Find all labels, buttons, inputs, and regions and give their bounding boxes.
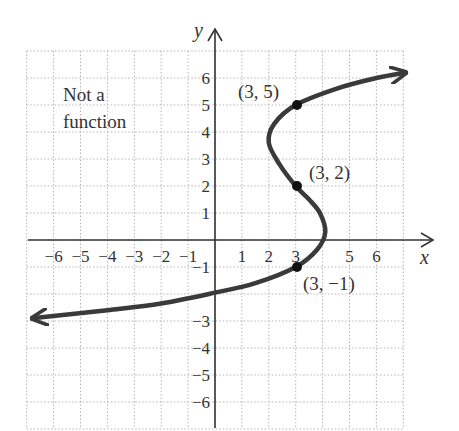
y-tick-label: −4 <box>192 339 211 358</box>
x-tick-label: 6 <box>372 247 381 266</box>
point-3-5 <box>292 100 302 110</box>
point-3-neg1 <box>292 262 302 272</box>
x-tick-label: −6 <box>45 247 63 266</box>
y-tick-label: 3 <box>202 150 211 169</box>
graph-plot: x y −6−5−4−3−2−112356654321−1−3−4−5−6 No… <box>0 0 459 431</box>
y-tick-label: −3 <box>192 312 210 331</box>
y-tick-label: 6 <box>202 69 211 88</box>
y-axis-label: y <box>192 19 203 42</box>
y-tick-label: −6 <box>192 393 210 412</box>
y-tick-label: −5 <box>192 366 210 385</box>
y-tick-label: 1 <box>202 204 211 223</box>
x-tick-label: 5 <box>345 247 354 266</box>
y-tick-label: 2 <box>202 177 211 196</box>
point-label-3-5: (3, 5) <box>238 81 279 103</box>
x-tick-label: −3 <box>125 247 143 266</box>
x-tick-label: −4 <box>98 247 117 266</box>
note-line-2: function <box>63 111 127 132</box>
x-axis-label: x <box>419 246 429 268</box>
point-3-2 <box>292 181 302 191</box>
x-tick-label: 1 <box>238 247 247 266</box>
x-tick-label: 2 <box>265 247 274 266</box>
note-annotation: Not a function <box>63 84 127 132</box>
x-tick-label: −5 <box>71 247 89 266</box>
point-label-3-neg1: (3, −1) <box>303 273 355 295</box>
y-tick-label: 5 <box>202 96 211 115</box>
y-tick-label: 4 <box>202 123 211 142</box>
point-label-3-2: (3, 2) <box>309 162 350 184</box>
x-tick-label: −2 <box>152 247 170 266</box>
note-line-1: Not a <box>63 84 105 105</box>
y-tick-label: −1 <box>192 258 210 277</box>
labeled-points: (3, 5) (3, 2) (3, −1) <box>238 81 355 295</box>
